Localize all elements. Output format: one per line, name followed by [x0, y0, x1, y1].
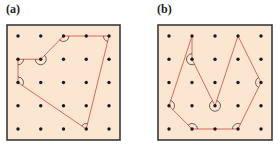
- panel-a-label: (a): [6, 2, 20, 17]
- grid-peg: [62, 104, 65, 107]
- grid-peg: [236, 81, 239, 84]
- grid-peg: [85, 104, 88, 107]
- grid-peg: [85, 34, 88, 37]
- grid-peg: [259, 58, 262, 61]
- grid-peg: [39, 127, 42, 130]
- grid-peg: [259, 81, 262, 84]
- grid-peg: [85, 58, 88, 61]
- grid-peg: [236, 104, 239, 107]
- grid-peg: [190, 104, 193, 107]
- grid-peg: [16, 58, 19, 61]
- grid-peg: [213, 58, 216, 61]
- geoboard-a-diagram: [6, 24, 121, 141]
- grid-peg: [62, 58, 65, 61]
- grid-peg: [39, 58, 42, 61]
- grid-peg: [259, 104, 262, 107]
- grid-peg: [107, 81, 110, 84]
- grid-peg: [236, 58, 239, 61]
- grid-peg: [190, 58, 193, 61]
- grid-peg: [167, 127, 170, 130]
- grid-peg: [85, 81, 88, 84]
- grid-peg: [16, 104, 19, 107]
- grid-peg: [62, 34, 65, 37]
- grid-peg: [259, 34, 262, 37]
- grid-peg: [62, 127, 65, 130]
- grid-peg: [107, 58, 110, 61]
- grid-peg: [236, 127, 239, 130]
- panel-a-geoboard: [6, 24, 121, 141]
- grid-peg: [167, 58, 170, 61]
- grid-peg: [190, 34, 193, 37]
- grid-peg: [107, 127, 110, 130]
- panel-b-label: (b): [157, 2, 172, 17]
- grid-peg: [167, 81, 170, 84]
- grid-peg: [213, 127, 216, 130]
- grid-peg: [213, 34, 216, 37]
- grid-peg: [213, 104, 216, 107]
- grid-peg: [190, 127, 193, 130]
- grid-peg: [16, 81, 19, 84]
- grid-peg: [16, 127, 19, 130]
- grid-peg: [167, 34, 170, 37]
- grid-peg: [62, 81, 65, 84]
- grid-peg: [167, 104, 170, 107]
- grid-peg: [39, 81, 42, 84]
- grid-peg: [16, 34, 19, 37]
- grid-peg: [213, 81, 216, 84]
- grid-peg: [236, 34, 239, 37]
- grid-peg: [190, 81, 193, 84]
- grid-peg: [259, 127, 262, 130]
- geoboard-b-diagram: [157, 24, 273, 141]
- grid-peg: [39, 104, 42, 107]
- grid-peg: [39, 34, 42, 37]
- grid-peg: [85, 127, 88, 130]
- grid-peg: [107, 104, 110, 107]
- panel-b-geoboard: [157, 24, 273, 141]
- grid-peg: [107, 34, 110, 37]
